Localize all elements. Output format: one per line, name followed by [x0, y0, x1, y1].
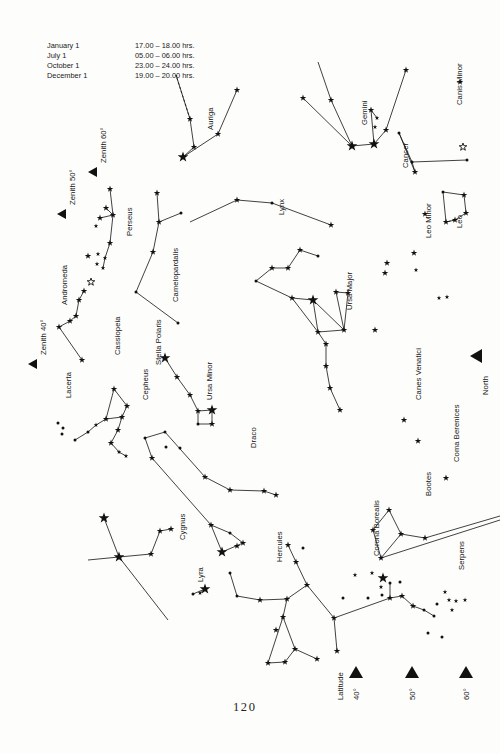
constellation-line	[230, 533, 243, 543]
compass-north-label: North	[481, 376, 490, 395]
star-med	[261, 488, 267, 494]
zenith-triangle-icon	[88, 167, 97, 177]
constellation-label-hercules: Hercules	[275, 531, 284, 562]
constellation-label-draco: Draco	[249, 427, 258, 448]
constellation-line	[88, 425, 96, 432]
constellation-line	[256, 268, 272, 281]
star-med	[382, 270, 388, 276]
constellation-line	[104, 518, 119, 557]
star-dot	[164, 431, 167, 434]
constellation-line	[336, 292, 344, 330]
star-dot	[271, 202, 274, 205]
star-med	[97, 215, 103, 221]
zenith-label-50: Zenith 50°	[68, 169, 77, 205]
star-med	[273, 492, 279, 498]
constellation-label-ursa-minor: Ursa Minor	[205, 362, 214, 400]
star-small	[463, 598, 468, 602]
constellation-label-lynx: Lynx	[277, 199, 286, 215]
star-med	[240, 540, 246, 546]
star-small	[353, 573, 358, 577]
star-dot	[411, 161, 414, 164]
time-table-row: December 119.00 – 20.00 hrs.	[47, 71, 195, 81]
constellation-label-lyra: Lyra	[196, 567, 205, 582]
star-small	[101, 266, 106, 270]
latitude-triangle-icon	[459, 666, 473, 678]
star-med	[108, 440, 114, 446]
star-med	[411, 250, 417, 256]
star-chart-page: January 117.00 – 18.00 hrs.July 105.00 –…	[0, 0, 500, 754]
star-med	[56, 324, 62, 330]
constellation-label-leo: Leo	[455, 215, 464, 228]
constellation-line	[292, 298, 318, 332]
time-table-hours: 17.00 – 18.00 hrs.	[135, 41, 195, 51]
star-dot	[87, 431, 90, 434]
star-dot	[179, 447, 182, 450]
star-med	[209, 421, 215, 427]
constellation-line	[331, 100, 352, 146]
constellation-line	[318, 62, 331, 100]
star-dot	[442, 191, 445, 194]
constellation-label-ursa-major: Ursa Major	[345, 272, 354, 310]
star-dot	[180, 212, 183, 215]
star-med	[422, 535, 428, 541]
constellation-line	[425, 516, 500, 538]
star-large	[308, 294, 319, 304]
star-small	[445, 295, 450, 299]
star-small	[450, 608, 455, 612]
star-med	[328, 97, 334, 103]
constellation-line	[183, 134, 218, 157]
constellation-label-cygnus: Cygnus	[178, 514, 187, 540]
star-med	[372, 327, 378, 333]
star-dot	[398, 132, 401, 135]
constellation-line	[389, 510, 401, 534]
constellation-line	[165, 432, 205, 477]
star-dot	[381, 594, 384, 597]
constellation-line	[268, 617, 283, 663]
star-med	[297, 247, 303, 253]
star-med	[328, 222, 334, 228]
star-dot	[229, 572, 232, 575]
star-large	[99, 512, 110, 522]
star-open	[459, 143, 467, 150]
constellation-line	[464, 195, 466, 213]
constellation-line	[190, 200, 237, 222]
constellation-line	[295, 649, 317, 659]
constellation-line	[313, 300, 318, 332]
star-med	[227, 487, 233, 493]
star-dot	[62, 427, 65, 430]
constellation-line	[136, 252, 153, 292]
constellation-line	[119, 557, 168, 620]
constellation-line	[283, 617, 295, 649]
star-dot	[367, 597, 370, 600]
zenith-label-60: Zenith 60°	[99, 127, 108, 163]
constellation-label-bootes: Bootes	[424, 472, 433, 496]
star-small	[124, 454, 129, 458]
constellation-line	[256, 281, 292, 298]
star-dot	[317, 255, 320, 258]
star-small	[95, 262, 100, 266]
star-med	[314, 656, 320, 662]
star-dot	[74, 439, 77, 442]
latitude-triangle-icon	[405, 666, 419, 678]
star-dot	[197, 423, 200, 426]
constellation-label-canes-venatici: Canes Venatici	[414, 348, 423, 400]
star-small	[373, 125, 378, 129]
star-dot	[255, 280, 258, 283]
constellation-line	[88, 557, 119, 560]
constellation-line	[260, 599, 287, 600]
star-med	[387, 595, 393, 601]
star-dot	[427, 632, 430, 635]
star-med	[234, 87, 240, 93]
star-med	[443, 219, 449, 225]
star-small	[437, 296, 442, 300]
star-med	[115, 427, 121, 433]
time-table-date: December 1	[47, 71, 135, 81]
star-med	[285, 542, 291, 548]
star-dot	[436, 603, 439, 606]
star-small	[96, 252, 101, 256]
star-med	[111, 386, 117, 392]
star-med	[386, 507, 392, 513]
constellation-line	[296, 562, 307, 585]
star-open	[87, 278, 95, 285]
time-table-date: October 1	[47, 61, 135, 71]
